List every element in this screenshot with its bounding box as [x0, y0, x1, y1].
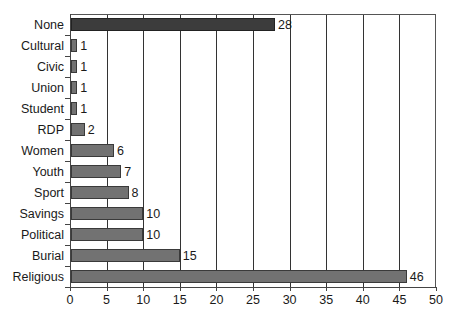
category-label: Savings	[20, 207, 64, 221]
y-tick	[65, 119, 70, 120]
x-tick-label: 45	[392, 293, 406, 307]
value-label: 8	[132, 186, 139, 200]
bar-religious	[71, 270, 407, 283]
x-tick	[216, 287, 217, 291]
x-tick-label: 25	[246, 293, 260, 307]
x-tick-label: 30	[283, 293, 297, 307]
category-label: Sport	[34, 186, 64, 200]
value-label: 1	[80, 81, 87, 95]
bar-burial	[71, 249, 180, 262]
value-label: 6	[117, 144, 124, 158]
bar-none	[71, 18, 275, 31]
category-label: Political	[21, 228, 64, 242]
category-label: Burial	[32, 249, 64, 263]
x-tick	[290, 287, 291, 291]
gridline	[180, 15, 181, 287]
x-tick-label: 0	[67, 293, 74, 307]
y-tick	[65, 182, 70, 183]
value-label: 1	[80, 39, 87, 53]
bar-women	[71, 144, 114, 157]
category-label: Union	[31, 81, 64, 95]
value-label: 2	[88, 123, 95, 137]
x-tick	[326, 287, 327, 291]
bar-union	[71, 81, 77, 94]
gridline	[253, 15, 254, 287]
bar-political	[71, 228, 143, 241]
category-label: Religious	[13, 270, 64, 284]
category-label: Women	[21, 144, 64, 158]
y-tick	[65, 287, 70, 288]
value-label: 1	[80, 60, 87, 74]
y-tick	[65, 98, 70, 99]
category-label: Cultural	[21, 39, 64, 53]
x-tick-label: 5	[103, 293, 110, 307]
bar-sport	[71, 186, 129, 199]
value-label: 15	[183, 249, 197, 263]
y-tick	[65, 224, 70, 225]
gridline	[143, 15, 144, 287]
x-tick-label: 20	[209, 293, 223, 307]
y-tick	[65, 203, 70, 204]
y-tick	[65, 56, 70, 57]
category-label: Youth	[32, 165, 64, 179]
value-label: 46	[410, 270, 424, 284]
x-tick	[363, 287, 364, 291]
category-label: None	[34, 18, 64, 32]
bar-civic	[71, 60, 77, 73]
x-tick	[70, 287, 71, 291]
x-tick	[253, 287, 254, 291]
bar-cultural	[71, 39, 77, 52]
value-label: 7	[124, 165, 131, 179]
x-tick	[107, 287, 108, 291]
gridline	[363, 15, 364, 287]
x-tick-label: 15	[173, 293, 187, 307]
x-tick-label: 35	[319, 293, 333, 307]
gridline	[326, 15, 327, 287]
horizontal-bar-chart: 05101520253035404550None28Cultural1Civic…	[0, 0, 452, 317]
y-tick	[65, 77, 70, 78]
bar-rdp	[71, 123, 85, 136]
gridline	[290, 15, 291, 287]
y-tick	[65, 140, 70, 141]
x-tick	[436, 287, 437, 291]
y-tick	[65, 266, 70, 267]
value-label: 28	[278, 18, 292, 32]
y-tick	[65, 35, 70, 36]
gridline	[216, 15, 217, 287]
value-label: 1	[80, 102, 87, 116]
bar-student	[71, 102, 77, 115]
x-tick	[180, 287, 181, 291]
gridline	[399, 15, 400, 287]
y-tick	[65, 161, 70, 162]
x-tick	[399, 287, 400, 291]
plot-area	[70, 14, 436, 287]
category-label: Student	[21, 102, 64, 116]
x-tick-label: 10	[136, 293, 150, 307]
bar-savings	[71, 207, 143, 220]
value-label: 10	[146, 207, 160, 221]
x-tick-label: 50	[429, 293, 443, 307]
category-label: Civic	[37, 60, 64, 74]
bar-youth	[71, 165, 121, 178]
x-tick-label: 40	[356, 293, 370, 307]
x-tick	[143, 287, 144, 291]
category-label: RDP	[38, 123, 64, 137]
y-tick	[65, 245, 70, 246]
value-label: 10	[146, 228, 160, 242]
